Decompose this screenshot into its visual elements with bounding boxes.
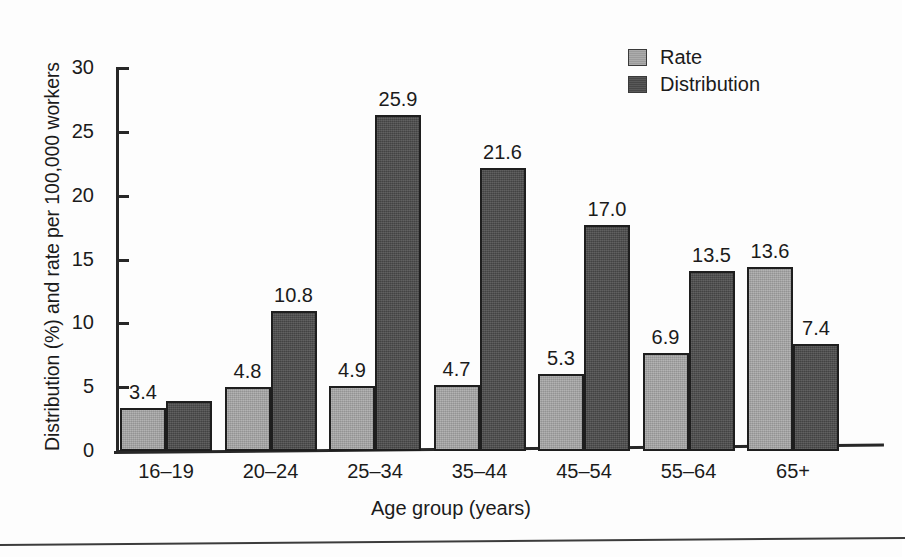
bar-value-label: 6.9 (652, 326, 680, 349)
bar-distribution (480, 168, 526, 451)
bar-value-label: 13.5 (692, 244, 731, 267)
x-axis-category-label: 55–64 (661, 460, 717, 483)
legend-label-distribution: Distribution (660, 73, 760, 96)
bar-value-label: 3.4 (129, 381, 157, 404)
x-axis-category-label: 65+ (776, 460, 810, 483)
bar-rate (747, 267, 793, 451)
bar-value-label: 17.0 (588, 198, 627, 221)
bar-value-label: 4.7 (443, 358, 471, 381)
y-axis-tick (116, 259, 129, 262)
bar-value-label: 25.9 (379, 88, 418, 111)
bar-rate (538, 374, 584, 451)
bar-value-label: 4.9 (338, 359, 366, 382)
y-axis-tick-label: 25 (46, 120, 94, 143)
bar-distribution (375, 115, 421, 451)
x-axis-category-label: 25–34 (347, 460, 403, 483)
bar-rate (120, 408, 166, 451)
x-axis-title: Age group (years) (0, 497, 902, 520)
page-separator-rule (0, 537, 905, 546)
bar-value-label: 13.6 (751, 240, 790, 263)
chart-legend: Rate Distribution (628, 44, 760, 98)
legend-swatch-distribution (628, 76, 647, 93)
x-axis-category-label: 20–24 (243, 460, 299, 483)
bar-rate (225, 387, 271, 451)
bar-distribution (584, 225, 630, 451)
y-axis-tick-label: 20 (46, 184, 94, 207)
bar-distribution (271, 311, 317, 451)
bar-distribution (793, 344, 839, 451)
x-axis-category-label: 45–54 (556, 460, 612, 483)
x-axis-category-label: 16–19 (138, 460, 194, 483)
bar-rate (329, 386, 375, 451)
y-axis-tick-label: 10 (46, 311, 94, 334)
bar-value-label: 7.4 (802, 317, 830, 340)
bar-value-label: 4.8 (234, 360, 262, 383)
legend-label-rate: Rate (660, 46, 702, 69)
bar-value-label: 10.8 (274, 284, 313, 307)
bar-value-label: 5.3 (547, 347, 575, 370)
y-axis-tick-label: 5 (46, 375, 94, 398)
legend-swatch-rate (628, 49, 647, 66)
bar-distribution (689, 271, 735, 451)
y-axis-tick-label: 0 (46, 439, 94, 462)
plot-area: 0510152025303.416–194.810.820–244.925.92… (118, 62, 878, 454)
legend-item-rate: Rate (628, 44, 760, 71)
y-axis-tick-label: 15 (46, 248, 94, 271)
legend-item-distribution: Distribution (628, 71, 760, 98)
y-axis-tick (116, 322, 129, 325)
y-axis-tick (116, 67, 129, 70)
bar-rate (643, 353, 689, 451)
bar-distribution (166, 401, 212, 451)
bar-value-label: 21.6 (483, 141, 522, 164)
y-axis-tick (116, 386, 129, 389)
y-axis-tick (116, 195, 129, 198)
y-axis-tick-label: 30 (46, 56, 94, 79)
y-axis-tick (116, 131, 129, 134)
x-axis-category-label: 35–44 (452, 460, 508, 483)
bar-rate (434, 385, 480, 451)
